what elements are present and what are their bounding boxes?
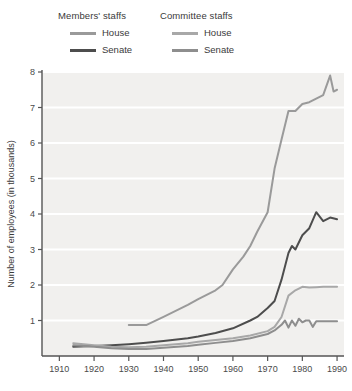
legend-swatch-icon	[172, 49, 198, 52]
x-tick-label: 1980	[292, 364, 312, 374]
chart-root: Members' staffs House Senate Committee s…	[0, 0, 352, 391]
x-tick-label: 1950	[188, 364, 208, 374]
x-tick-label: 1920	[84, 364, 104, 374]
y-tick-label: 5	[30, 174, 35, 184]
legend-group-committee-staffs: Committee staffs House Senate	[160, 10, 234, 55]
legend-item-label: Senate	[102, 45, 132, 55]
x-tick-label: 1930	[119, 364, 139, 374]
legend-item-members-house: House	[70, 28, 132, 38]
legend-item-label: Senate	[204, 45, 234, 55]
y-tick-label: 4	[30, 209, 35, 219]
legend-item-committee-senate: Senate	[172, 45, 234, 55]
y-axis-title-label: Number of employees (in thousands)	[6, 140, 16, 288]
x-tick-label: 1940	[153, 364, 173, 374]
legend-swatch-icon	[70, 32, 96, 35]
legend-group-title: Members' staffs	[58, 10, 132, 21]
x-axis-ticks: 191019201930194019501960197019801990	[49, 356, 347, 374]
y-axis-ticks: 12345678	[30, 67, 42, 326]
legend-item-label: House	[204, 28, 231, 38]
y-tick-label: 3	[30, 245, 35, 255]
legend-item-committee-house: House	[172, 28, 234, 38]
x-tick-label: 1960	[223, 364, 243, 374]
y-axis-title: Number of employees (in thousands)	[6, 140, 16, 288]
legend-group-title: Committee staffs	[160, 10, 234, 21]
legend-item-members-senate: Senate	[70, 45, 132, 55]
legend-swatch-icon	[172, 32, 198, 35]
y-tick-label: 1	[30, 316, 35, 326]
y-tick-label: 7	[30, 103, 35, 113]
x-tick-label: 1970	[258, 364, 278, 374]
x-tick-label: 1910	[49, 364, 69, 374]
legend-group-members-staffs: Members' staffs House Senate	[58, 10, 132, 55]
x-tick-label: 1990	[327, 364, 347, 374]
chart-legend: Members' staffs House Senate Committee s…	[0, 0, 352, 64]
y-tick-label: 8	[30, 67, 35, 77]
legend-swatch-icon	[70, 49, 96, 52]
y-tick-label: 2	[30, 280, 35, 290]
y-tick-label: 6	[30, 138, 35, 148]
legend-item-label: House	[102, 28, 129, 38]
